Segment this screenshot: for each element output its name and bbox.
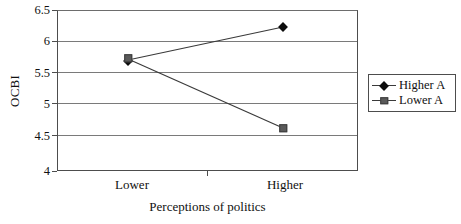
data-point-lower-a-higher [279, 124, 287, 132]
square-glyph [380, 97, 388, 105]
x-tick-mark [207, 171, 208, 176]
gridline [58, 72, 357, 73]
y-axis-tick-labels: 6.5 6 5.5 5 4.5 4 [24, 0, 55, 224]
y-tick-label: 4 [24, 165, 55, 178]
x-tick-label-lower: Lower [115, 178, 149, 191]
legend-label-higher-a: Higher A [396, 79, 445, 92]
y-tick-label: 4.5 [24, 130, 55, 143]
y-tick-label: 6 [24, 35, 55, 48]
plot-area [57, 10, 358, 171]
x-tick-label-higher: Higher [267, 178, 303, 191]
y-tick-label: 6.5 [24, 4, 55, 17]
legend-item-lower-a: Lower A [372, 93, 451, 108]
y-tick-label: 5 [24, 98, 55, 111]
interaction-plot-figure: OCBI 6.5 6 5.5 5 4.5 4 Lower Higher Perc… [0, 0, 461, 224]
y-tick-label: 5.5 [24, 67, 55, 80]
diamond-glyph [379, 81, 389, 91]
gridline [58, 41, 357, 42]
y-axis-title-label: OCBI [7, 75, 23, 107]
legend-item-higher-a: Higher A [372, 78, 451, 93]
chart-legend: Higher A Lower A [368, 74, 456, 112]
diamond-marker-icon [372, 79, 396, 93]
square-marker-icon [372, 94, 396, 108]
y-tick-mark [52, 171, 57, 172]
data-point-lower-a-lower [124, 54, 132, 62]
gridline [58, 103, 357, 104]
legend-label-lower-a: Lower A [396, 94, 443, 107]
gridline [58, 135, 357, 136]
x-axis-title: Perceptions of politics [57, 200, 358, 213]
